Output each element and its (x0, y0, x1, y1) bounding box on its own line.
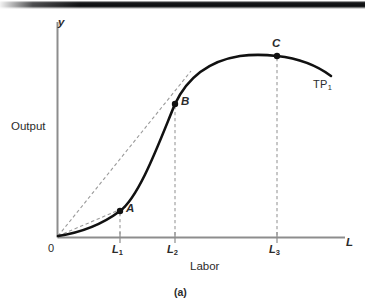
x-tick-label-l2: L2 (167, 244, 178, 256)
x-tick-label-l1-subscript: 1 (119, 248, 123, 257)
point-label-c: C (272, 38, 280, 50)
point-label-b: B (181, 96, 189, 108)
x-tick-label-l3: L3 (269, 244, 280, 256)
x-tick-label-l2-subscript: 2 (174, 248, 178, 257)
x-tick-label-l1: L1 (112, 244, 123, 256)
x-axis-symbol: L (346, 237, 353, 249)
curve-label-tp1-base: TP (313, 78, 328, 90)
x-tick-label-l3-subscript: 3 (276, 248, 280, 257)
origin-label: 0 (48, 243, 54, 254)
y-axis-symbol: y (58, 17, 64, 29)
y-axis-title: Output (11, 121, 46, 133)
point-label-a: A (126, 203, 134, 215)
data-point-a (117, 208, 123, 214)
figure-panel-a: y L Output Labor 0 L1 L2 L3 A B C TP1 (a… (0, 0, 365, 307)
ray-origin-to-a (58, 207, 126, 236)
panel-caption: (a) (174, 287, 187, 298)
x-tick-label-l3-base: L (269, 243, 276, 255)
curve-label-tp1: TP1 (313, 79, 332, 91)
data-point-b (172, 101, 178, 107)
data-point-c (274, 53, 280, 59)
x-tick-label-l2-base: L (167, 243, 174, 255)
x-axis-title: Labor (190, 261, 219, 273)
x-tick-label-l1-base: L (112, 243, 119, 255)
ray-origin-to-b (58, 71, 191, 236)
total-product-curve-plot (0, 0, 365, 307)
total-product-curve (58, 55, 331, 236)
curve-label-tp1-subscript: 1 (328, 83, 332, 92)
